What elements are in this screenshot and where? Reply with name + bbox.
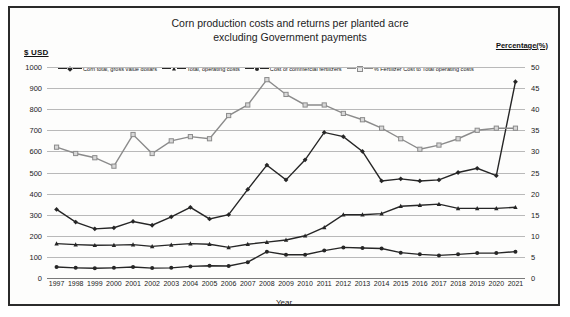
- data-point: [188, 135, 192, 139]
- y-tick-left: 500: [29, 168, 42, 177]
- data-point: [93, 156, 97, 160]
- data-point: [360, 118, 364, 122]
- x-tick: 2020: [489, 280, 505, 287]
- data-point: [150, 151, 154, 155]
- y-tick-right: 10: [531, 231, 539, 240]
- data-point: [437, 253, 441, 257]
- x-tick: 2001: [125, 280, 141, 287]
- data-point: [380, 126, 384, 130]
- x-tick: 2008: [259, 280, 275, 287]
- series-1: [54, 202, 517, 249]
- data-point: [131, 219, 136, 224]
- x-tick: 2007: [240, 280, 256, 287]
- data-point: [74, 266, 78, 270]
- x-tick: 2002: [144, 280, 160, 287]
- data-point: [513, 79, 518, 84]
- data-point: [169, 266, 173, 270]
- y-tick-right: 40: [531, 105, 539, 114]
- data-point: [112, 164, 116, 168]
- data-point: [169, 214, 174, 219]
- data-point: [341, 111, 345, 115]
- data-point: [150, 266, 154, 270]
- data-point: [150, 223, 155, 228]
- chart-title: Corn production costs and returns per pl…: [120, 16, 460, 44]
- series-3: [54, 78, 517, 169]
- x-tick: 2015: [393, 280, 409, 287]
- y-tick-left: 300: [29, 210, 42, 219]
- chart-frame: Corn production costs and returns per pl…: [8, 6, 560, 306]
- data-point: [322, 103, 326, 107]
- x-tick: 1998: [68, 280, 84, 287]
- data-point: [265, 250, 269, 254]
- y-tick-left: 1000: [25, 63, 42, 72]
- data-point: [227, 264, 231, 268]
- x-tick: 2003: [163, 280, 179, 287]
- x-tick: 2013: [355, 280, 371, 287]
- x-tick: 2010: [297, 280, 313, 287]
- y-axis-right-label: Percentage(%): [496, 41, 548, 50]
- data-point: [54, 145, 58, 149]
- data-point: [475, 251, 479, 255]
- data-point: [303, 253, 307, 257]
- data-point: [437, 143, 441, 147]
- data-point: [188, 264, 192, 268]
- x-tick: 2000: [106, 280, 122, 287]
- data-point: [74, 151, 78, 155]
- x-tick: 2016: [412, 280, 428, 287]
- x-tick: 2011: [317, 280, 332, 287]
- y-tick-left: 400: [29, 189, 42, 198]
- series-plot: [47, 67, 525, 278]
- series-line: [57, 247, 516, 268]
- data-point: [456, 137, 460, 141]
- data-point: [131, 132, 135, 136]
- y-tick-right: 15: [531, 210, 539, 219]
- data-point: [55, 265, 59, 269]
- y-tick-right: 50: [531, 63, 539, 72]
- series-0: [54, 79, 518, 231]
- data-point: [112, 266, 116, 270]
- data-point: [341, 245, 345, 249]
- data-point: [227, 113, 231, 117]
- y-tick-right: 5: [531, 252, 535, 261]
- data-point: [360, 246, 364, 250]
- y-tick-right: 20: [531, 189, 539, 198]
- data-point: [399, 137, 403, 141]
- series-2: [55, 245, 518, 270]
- y-tick-right: 30: [531, 147, 539, 156]
- y-tick-left: 600: [29, 147, 42, 156]
- y-tick-left: 0: [38, 274, 42, 283]
- x-tick: 1997: [49, 280, 65, 287]
- data-point: [513, 126, 517, 130]
- data-point: [246, 103, 250, 107]
- x-tick: 2017: [431, 280, 447, 287]
- data-point: [456, 252, 460, 256]
- y-tick-left: 700: [29, 126, 42, 135]
- data-point: [398, 176, 403, 181]
- data-point: [208, 264, 212, 268]
- x-tick: 2006: [221, 280, 237, 287]
- y-tick-left: 900: [29, 84, 42, 93]
- x-tick: 1999: [87, 280, 103, 287]
- data-point: [475, 128, 479, 132]
- data-point: [284, 92, 288, 96]
- data-point: [494, 126, 498, 130]
- y-axis-left-label: $ USD: [24, 48, 49, 57]
- plot-area: 10009008007006005004003002001000 5045403…: [47, 67, 525, 278]
- data-point: [93, 266, 97, 270]
- x-axis-line: [47, 278, 525, 279]
- data-point: [417, 179, 422, 184]
- data-point: [494, 173, 499, 178]
- data-point: [284, 253, 288, 257]
- data-point: [169, 139, 173, 143]
- data-point: [207, 137, 211, 141]
- y-tick-left: 800: [29, 105, 42, 114]
- data-point: [399, 251, 403, 255]
- y-tick-left: 100: [29, 252, 42, 261]
- x-tick: 2012: [336, 280, 352, 287]
- x-tick: 2004: [183, 280, 199, 287]
- chart-title-line-1: Corn production costs and returns per pl…: [120, 16, 460, 30]
- y-tick-left: 200: [29, 231, 42, 240]
- x-tick: 2009: [278, 280, 294, 287]
- y-tick-right: 35: [531, 126, 539, 135]
- series-line: [57, 82, 516, 229]
